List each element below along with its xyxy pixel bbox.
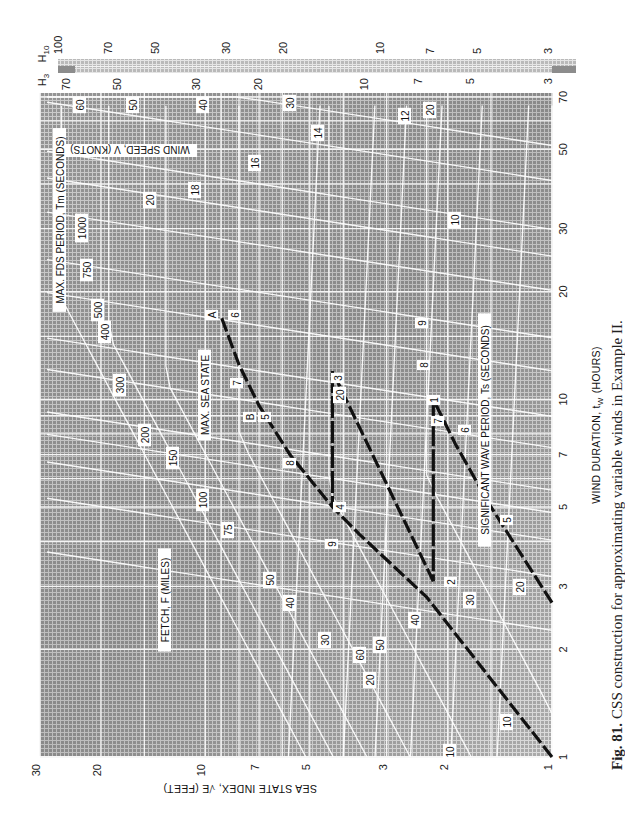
construction-point-label: 6 (458, 425, 471, 435)
svg-text:60: 60 (75, 99, 86, 111)
h10-tick-label: 7 (424, 48, 436, 54)
svg-text:SIGNIFICANT WAVE PERIOD, Ts (S: SIGNIFICANT WAVE PERIOD, Ts (SECONDS) (480, 325, 491, 535)
svg-text:500: 500 (93, 301, 104, 318)
h3-tick-label: 7 (412, 78, 424, 84)
svg-text:750: 750 (82, 261, 93, 278)
h10-tick-label: 10 (374, 42, 386, 54)
svg-text:30: 30 (285, 97, 296, 109)
construction-point-label: 9 (325, 539, 338, 549)
svg-text:150: 150 (168, 449, 179, 466)
svg-text:FETCH, F (MILES): FETCH, F (MILES) (160, 558, 171, 642)
svg-text:7: 7 (433, 418, 444, 424)
curve-value-label: 18 (188, 182, 201, 198)
construction-point-label: 3 (331, 373, 344, 383)
curve-value-label: 16 (248, 155, 261, 171)
h10-tick-label: 100 (52, 36, 64, 54)
figure-caption: Fig. 81.CSS construction for approximati… (609, 320, 625, 770)
wind-duration-axis-title: WIND DURATION, tW(HOURS) (590, 346, 605, 503)
h3-tick-label: 3 (542, 78, 554, 84)
svg-text:50: 50 (265, 574, 276, 586)
svg-text:40: 40 (198, 99, 209, 111)
h10-tick-label: 50 (149, 42, 161, 54)
x-tick-label: 30 (557, 223, 569, 235)
svg-text:100: 100 (198, 491, 209, 508)
curve-value-label: 7 (431, 416, 444, 426)
sea-state-axis-title: SEA STATE INDEX, √E (FEET) (163, 783, 317, 795)
svg-text:6: 6 (460, 427, 471, 433)
h3-tick-label: 50 (111, 78, 123, 90)
svg-text:300: 300 (115, 376, 126, 393)
svg-text:10: 10 (502, 716, 513, 728)
curve-value-label: 50 (263, 572, 276, 588)
x-tick-label: 50 (557, 143, 569, 155)
svg-text:1000: 1000 (77, 216, 88, 239)
svg-text:18: 18 (190, 184, 201, 196)
svg-text:WIND SPEED, V (KNOTS): WIND SPEED, V (KNOTS) (70, 144, 189, 155)
fetch-label: FETCH, F (MILES) (158, 548, 171, 651)
h3-tick-label: 20 (252, 78, 264, 90)
x-tick-label: 7 (557, 452, 569, 458)
svg-text:9: 9 (417, 320, 428, 326)
curve-value-label: 200 (138, 424, 151, 447)
construction-point-label: 6 (228, 310, 241, 320)
curve-value-label: 30 (318, 632, 331, 648)
curve-value-label: 10 (448, 212, 461, 228)
construction-point-label: 4 (333, 502, 346, 512)
chart-figure: 3571020305070100 3571020305070 H10 H3 WI… (0, 0, 625, 827)
svg-text:10: 10 (445, 746, 456, 758)
curve-value-label: 400 (98, 321, 111, 344)
x-tick-label: 70 (557, 91, 569, 103)
wave-period-label: SIGNIFICANT WAVE PERIOD, Ts (SECONDS) (478, 313, 491, 546)
curve-value-label: 30 (463, 592, 476, 608)
h3-tick-label: 70 (60, 78, 72, 90)
svg-text:40: 40 (410, 614, 421, 626)
y-tick-label: 20 (91, 764, 103, 776)
x-tick-label: 5 (557, 504, 569, 510)
curve-value-label: 50 (126, 97, 139, 113)
construction-point-label: A (205, 310, 218, 320)
y-tick-label: 1 (542, 764, 554, 770)
svg-text:12: 12 (400, 110, 411, 122)
x-tick-label: 20 (557, 285, 569, 297)
construction-point-label: 5 (258, 412, 271, 422)
y-tick-label: 10 (195, 764, 207, 776)
svg-text:6: 6 (230, 312, 241, 318)
h10-scale-label: H10 (36, 45, 51, 62)
h3-scale-label: H3 (36, 73, 51, 86)
x-tick-label: 2 (557, 646, 569, 652)
curve-value-label: 9 (415, 318, 428, 328)
h3-tick-label: 5 (464, 78, 476, 84)
svg-text:A: A (207, 311, 218, 318)
x-tick-label: 3 (557, 583, 569, 589)
y-tick-label: 7 (249, 764, 261, 770)
svg-text:10: 10 (450, 214, 461, 226)
svg-text:4: 4 (335, 504, 346, 510)
sea-state-axis-ticks: 12357102030 (30, 764, 554, 776)
curve-value-label: 10 (443, 744, 456, 760)
y-tick-label: 2 (438, 764, 450, 770)
curve-value-label: 20 (143, 192, 156, 208)
curve-value-label: 60 (353, 647, 366, 663)
construction-point-label: B (243, 412, 256, 422)
curve-value-label: 20 (423, 102, 436, 118)
svg-text:50: 50 (128, 99, 139, 111)
curve-value-label: 8 (417, 360, 430, 370)
curve-value-label: 12 (398, 108, 411, 124)
h10-tick-label: 30 (220, 42, 232, 54)
curve-value-label: 750 (80, 259, 93, 282)
svg-text:9: 9 (327, 541, 338, 547)
svg-text:20: 20 (365, 674, 376, 686)
svg-text:20: 20 (335, 389, 346, 401)
construction-point-label: 2 (444, 577, 457, 587)
curve-value-label: 20 (333, 387, 346, 403)
wind-speed-label: WIND SPEED, V (KNOTS) (63, 144, 197, 157)
curve-value-label: 30 (283, 95, 296, 111)
h3-tick-label: 30 (190, 78, 202, 90)
h10-tick-label: 3 (542, 48, 554, 54)
svg-text:20: 20 (145, 194, 156, 206)
curve-value-label: 100 (196, 489, 209, 512)
svg-text:7: 7 (232, 380, 243, 386)
construction-point-label: 5 (500, 515, 513, 525)
svg-text:3: 3 (333, 375, 344, 381)
plot-area: WIND SPEED, V (KNOTS)FETCH, F (MILES)MAX… (40, 93, 553, 760)
